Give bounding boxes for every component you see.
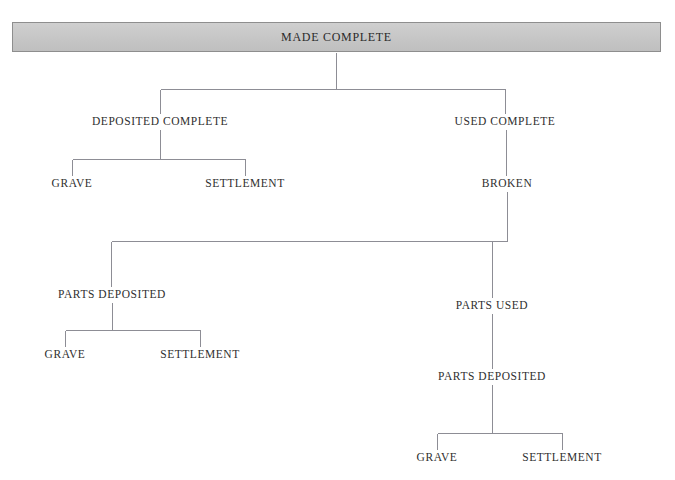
node-used-complete: USED COMPLETE: [452, 114, 559, 128]
node-settlement-2: SETTLEMENT: [157, 347, 243, 361]
node-grave-2: GRAVE: [42, 347, 89, 361]
node-parts-used: PARTS USED: [453, 298, 531, 312]
node-parts-deposited-1: PARTS DEPOSITED: [55, 287, 169, 301]
node-grave-1: GRAVE: [49, 176, 96, 190]
node-settlement-3: SETTLEMENT: [519, 450, 605, 464]
node-parts-deposited-2: PARTS DEPOSITED: [435, 369, 549, 383]
node-grave-3: GRAVE: [414, 450, 461, 464]
node-made-complete-label: MADE COMPLETE: [281, 30, 392, 45]
node-broken: BROKEN: [479, 176, 536, 190]
connector-lines: [0, 0, 675, 480]
node-settlement-1: SETTLEMENT: [202, 176, 288, 190]
flow-chart-diagram: MADE COMPLETE DEPOSITED COMPLETE USED CO…: [0, 0, 675, 480]
node-deposited-complete: DEPOSITED COMPLETE: [89, 114, 231, 128]
node-made-complete: MADE COMPLETE: [12, 22, 661, 52]
